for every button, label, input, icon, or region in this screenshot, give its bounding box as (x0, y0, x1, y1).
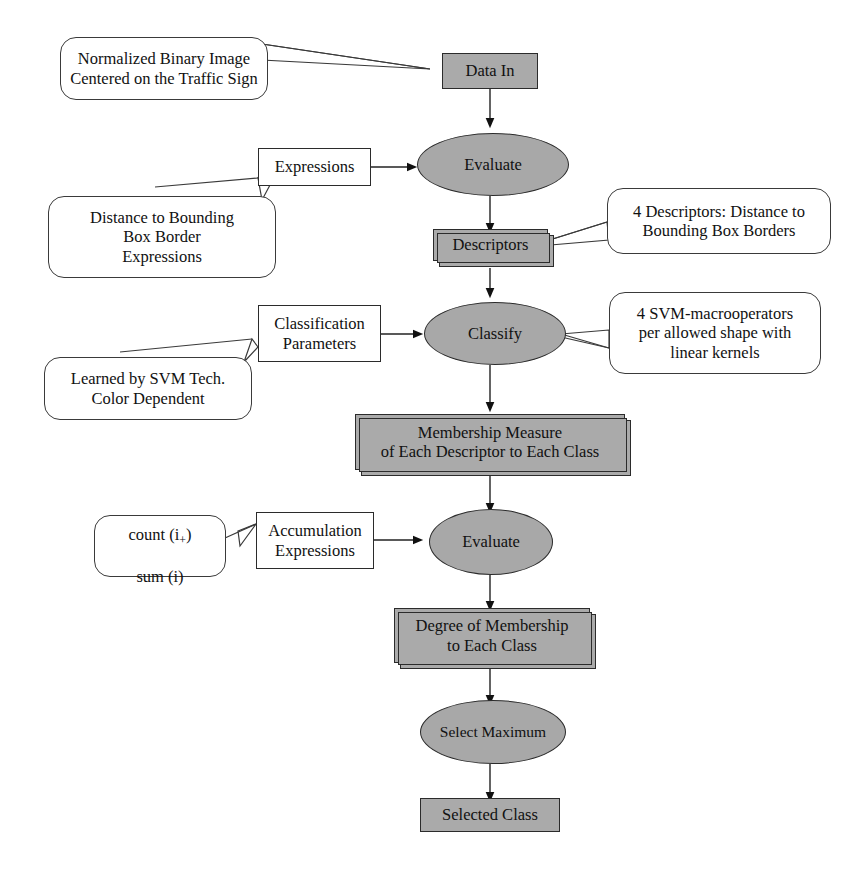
node-evaluate-1-label: Evaluate (464, 155, 522, 174)
callout-accumulation-functions-label: count (i+) sum (i) (128, 506, 191, 587)
node-evaluate-1[interactable]: Evaluate (417, 133, 569, 196)
node-data-in-label: Data In (465, 61, 514, 80)
node-classify[interactable]: Classify (424, 302, 566, 365)
callout-tail-accumulation (238, 524, 256, 546)
callout-tail-parameters (244, 339, 258, 362)
accumulation-sum: sum (i) (136, 567, 183, 586)
callout-expression-description: Distance to Bounding Box Border Expressi… (48, 196, 276, 278)
callout-input-description: Normalized Binary Image Centered on the … (60, 37, 268, 100)
node-selected-class[interactable]: Selected Class (420, 798, 560, 832)
callout-svm-description-label: 4 SVM-macrooperators per allowed shape w… (637, 304, 793, 362)
node-evaluate-2[interactable]: Evaluate (429, 509, 553, 575)
node-degree-membership-label: Degree of Membership to Each Class (415, 616, 568, 655)
node-descriptors-label: Descriptors (452, 235, 528, 254)
node-data-in[interactable]: Data In (442, 53, 538, 89)
callout-input-description-label: Normalized Binary Image Centered on the … (70, 49, 258, 88)
param-classification-parameters-label: Classification Parameters (274, 314, 365, 353)
callout-tail-svm (561, 330, 609, 348)
node-membership-measure-label: Membership Measure of Each Descriptor to… (381, 423, 600, 462)
accumulation-count-pre: count (i (128, 525, 179, 544)
callout-tail-line-accumulation (225, 524, 256, 538)
callout-parameter-source: Learned by SVM Tech. Color Dependent (44, 357, 252, 420)
callout-tail-input (262, 44, 430, 69)
callout-expression-description-label: Distance to Bounding Box Border Expressi… (90, 208, 234, 266)
callout-tail-line-parameters (120, 339, 252, 352)
param-expressions-label: Expressions (275, 157, 355, 176)
flowchart-canvas: Data In Evaluate Descriptors Classify Me… (0, 0, 862, 878)
callout-svm-description: 4 SVM-macrooperators per allowed shape w… (609, 292, 821, 374)
callout-tail-line-svm (561, 337, 609, 348)
node-select-maximum-label: Select Maximum (440, 723, 546, 741)
param-accumulation-expressions-label: Accumulation Expressions (268, 521, 361, 560)
callout-descriptor-description-label: 4 Descriptors: Distance to Bounding Box … (633, 202, 805, 241)
callout-accumulation-functions: count (i+) sum (i) (94, 515, 226, 577)
param-classification-parameters[interactable]: Classification Parameters (258, 305, 381, 362)
node-classify-label: Classify (468, 324, 522, 343)
param-expressions[interactable]: Expressions (258, 148, 371, 186)
node-select-maximum[interactable]: Select Maximum (420, 700, 566, 764)
callout-parameter-source-label: Learned by SVM Tech. Color Dependent (71, 369, 225, 408)
node-evaluate-2-label: Evaluate (462, 532, 520, 551)
callout-tail-line-expressions (155, 178, 258, 187)
accumulation-count-post: ) (186, 525, 192, 544)
callout-descriptor-description: 4 Descriptors: Distance to Bounding Box … (607, 188, 831, 254)
node-degree-membership[interactable]: Degree of Membership to Each Class (394, 608, 590, 663)
node-selected-class-label: Selected Class (442, 805, 538, 824)
callout-tail-line-input (262, 44, 430, 69)
param-accumulation-expressions[interactable]: Accumulation Expressions (256, 512, 374, 569)
node-descriptors[interactable]: Descriptors (433, 229, 548, 261)
node-membership-measure[interactable]: Membership Measure of Each Descriptor to… (355, 414, 625, 470)
